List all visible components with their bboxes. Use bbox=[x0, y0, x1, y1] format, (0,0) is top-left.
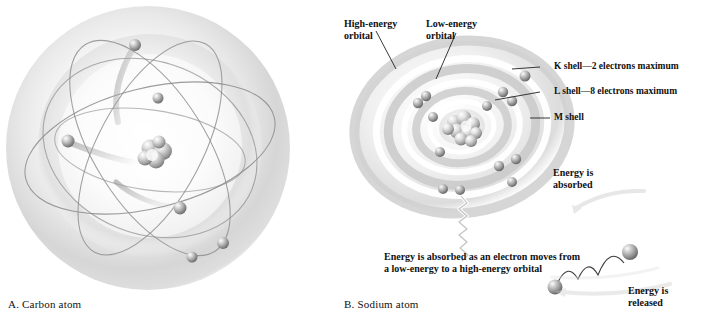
label-m-shell: M shell bbox=[554, 112, 584, 124]
label-l-shell: L shell—8 electrons maximum bbox=[554, 86, 677, 98]
label-energy-absorbed: Energy is absorbed bbox=[553, 167, 593, 191]
atomic-structure-figure: A. Carbon atom bbox=[0, 0, 706, 328]
carbon-atom-illustration bbox=[0, 0, 340, 300]
label-high-energy-orbital: High-energy orbital bbox=[344, 18, 397, 42]
caption-sodium-atom: B. Sodium atom bbox=[344, 298, 419, 310]
label-low-energy-orbital: Low-energy orbital bbox=[426, 18, 477, 42]
caption-carbon-atom: A. Carbon atom bbox=[8, 298, 81, 310]
electron-high-state bbox=[622, 244, 638, 260]
panel-carbon-atom: A. Carbon atom bbox=[0, 0, 340, 328]
label-energy-released: Energy is released bbox=[628, 285, 668, 309]
sodium-atom-illustration bbox=[340, 0, 706, 328]
carbon-nucleus bbox=[122, 119, 194, 191]
energy-absorbed-arrow bbox=[572, 191, 644, 214]
label-k-shell: K shell—2 electrons maximum bbox=[554, 61, 679, 73]
label-absorption-note: Energy is absorbed as an electron moves … bbox=[384, 251, 584, 275]
panel-sodium-atom: High-energy orbital Low-energy orbital K… bbox=[340, 0, 706, 328]
